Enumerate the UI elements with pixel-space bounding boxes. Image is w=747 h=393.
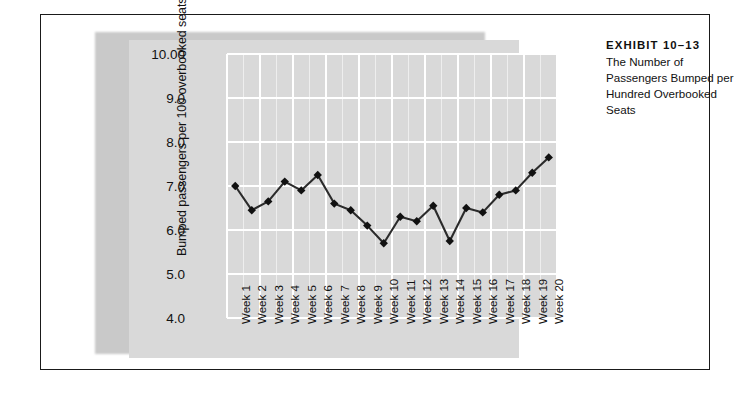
x-axis-tick-label: Week 3: [273, 285, 285, 324]
exhibit-number: EXHIBIT 10–13: [606, 37, 746, 53]
x-axis-tick-label: Week 18: [520, 279, 532, 324]
x-axis-tick-label: Week 13: [438, 279, 450, 324]
data-point-marker: [462, 204, 470, 212]
x-axis-tick-label: Week 10: [388, 279, 400, 324]
x-axis-tick-label: Week 9: [372, 285, 384, 324]
y-axis-tick-label: 6.0: [125, 223, 185, 238]
y-axis-tick-label: 8.0: [125, 135, 185, 150]
y-axis-title: Bumped passengers per 100 overbooked sea…: [175, 6, 189, 256]
x-axis-tick-label: Week 11: [405, 280, 417, 324]
chart-panel: Bumped passengers per 100 overbooked sea…: [129, 40, 519, 358]
x-axis-tick-label: Week 17: [504, 279, 516, 324]
x-axis-tick-label: Week 16: [487, 279, 499, 324]
exhibit-caption: EXHIBIT 10–13 The Number of Passengers B…: [606, 37, 746, 118]
x-axis-tick-label: Week 1: [240, 285, 252, 324]
x-axis-tick-label: Week 8: [355, 285, 367, 324]
exhibit-frame: Bumped passengers per 100 overbooked sea…: [40, 14, 710, 370]
x-axis-tick-label: Week 5: [306, 285, 318, 324]
data-point-marker: [446, 237, 454, 245]
y-axis-tick-label: 9.0: [125, 91, 185, 106]
exhibit-title: The Number of Passengers Bumped per Hund…: [606, 54, 746, 118]
x-axis-tick-label: Week 7: [339, 285, 351, 324]
x-axis-tick-label: Week 4: [289, 285, 301, 324]
data-point-marker: [330, 199, 338, 207]
x-axis-tick-label: Week 14: [454, 279, 466, 324]
x-axis-tick-label: Week 19: [537, 279, 549, 324]
page-root: Bumped passengers per 100 overbooked sea…: [0, 0, 747, 393]
y-axis-tick-label: 4.0: [125, 311, 185, 326]
chart-figure: Bumped passengers per 100 overbooked sea…: [89, 26, 523, 360]
y-axis-tick-label: 10.00: [125, 47, 185, 62]
x-axis-tick-label: Week 6: [322, 285, 334, 324]
x-axis-tick-label: Week 2: [256, 285, 268, 324]
x-axis-tick-label: Week 20: [553, 279, 565, 324]
x-axis-tick-label: Week 15: [471, 279, 483, 324]
x-axis-tick-label: Week 12: [421, 279, 433, 324]
y-axis-tick-label: 7.0: [125, 179, 185, 194]
series-line: [235, 157, 549, 243]
y-axis-tick-label: 5.0: [125, 267, 185, 282]
